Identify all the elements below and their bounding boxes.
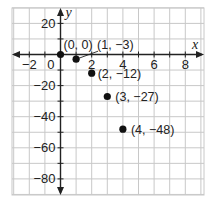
y-tick-label: 20	[41, 16, 55, 31]
point-label: (3, −27)	[115, 90, 158, 104]
x-tick-label: 2	[88, 57, 95, 72]
y-tick-label: −60	[33, 140, 55, 155]
origin-label: 0	[47, 57, 54, 72]
data-point	[57, 51, 64, 58]
data-points: (0, 0)(1, −3)(2, −12)(3, −27)(4, −48)	[57, 38, 174, 137]
x-axis-name: x	[191, 37, 199, 52]
point-label: (2, −12)	[98, 67, 141, 81]
y-axis-name: y	[64, 5, 73, 20]
y-axis-down-arrow-icon	[57, 187, 64, 195]
point-label: (1, −3)	[97, 38, 133, 52]
grid-lines	[12, 8, 204, 195]
data-point	[119, 126, 126, 133]
y-axis-up-arrow-icon	[57, 8, 64, 16]
y-tick-label: −80	[33, 171, 55, 186]
data-point	[73, 56, 80, 63]
data-point	[88, 70, 95, 77]
x-tick-label: 6	[150, 57, 157, 72]
y-tick-label: −20	[33, 78, 55, 93]
x-tick-label: −2	[22, 57, 37, 72]
x-tick-label: 8	[182, 57, 189, 72]
data-point	[104, 93, 111, 100]
point-label: (4, −48)	[131, 123, 174, 137]
point-label: (0, 0)	[64, 38, 93, 52]
coordinate-plane: −2246820−20−40−60−800yx (0, 0)(1, −3)(2,…	[0, 0, 210, 202]
x-axis-right-arrow-icon	[196, 51, 204, 58]
y-tick-label: −40	[33, 109, 55, 124]
